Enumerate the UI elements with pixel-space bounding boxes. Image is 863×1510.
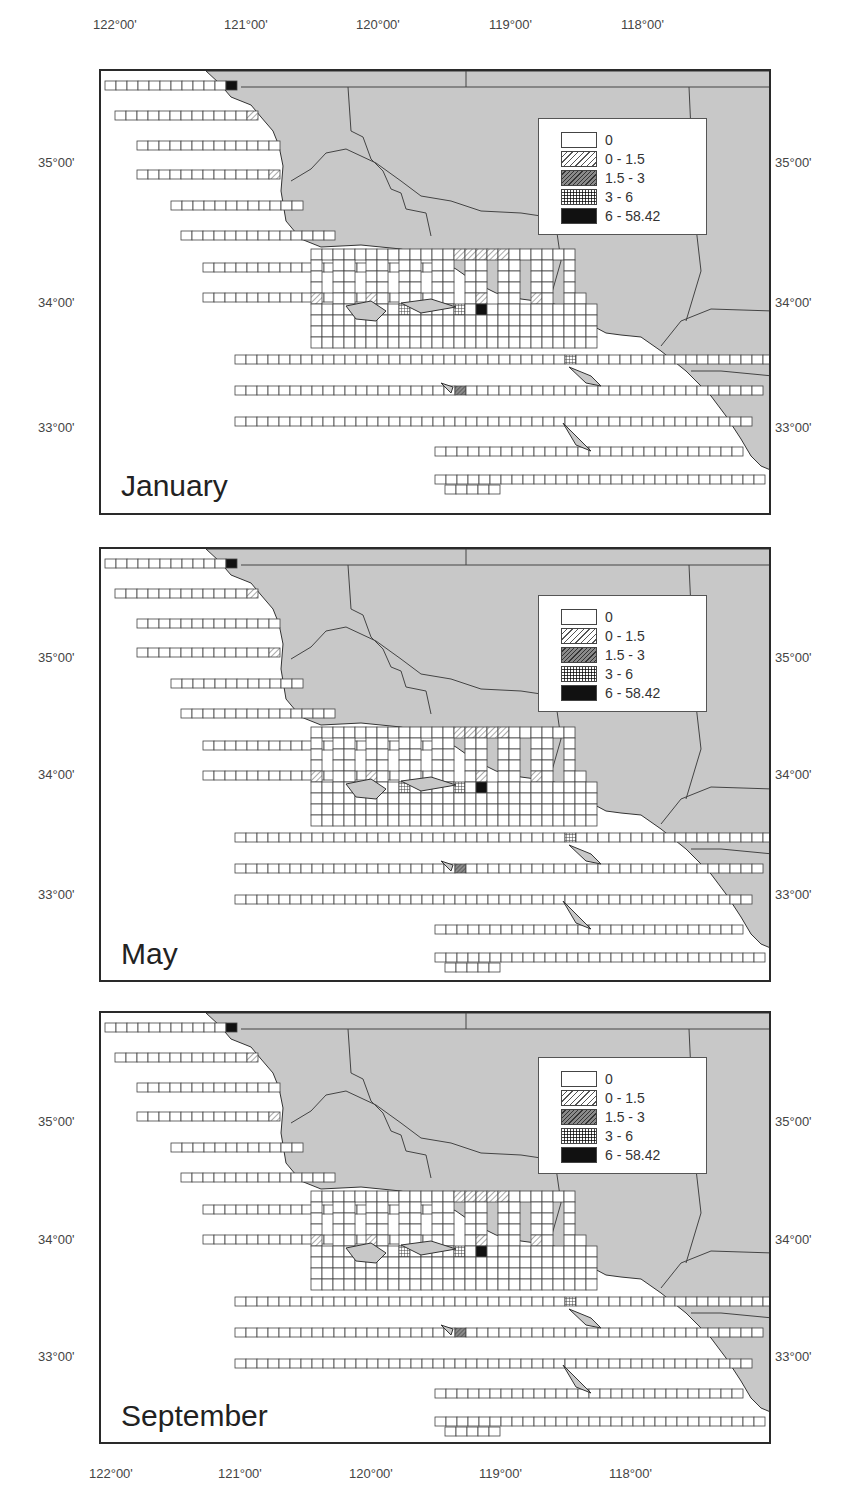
legend-label: 0 - 1.5 [605, 628, 645, 644]
legend-swatch [561, 1090, 597, 1106]
legend-label: 0 [605, 609, 613, 625]
legend-label: 0 [605, 132, 613, 148]
lat-label: 33°00' [775, 1349, 812, 1364]
legend-item: 0 - 1.5 [561, 627, 645, 645]
legend-label: 6 - 58.42 [605, 1147, 660, 1163]
legend-item: 6 - 58.42 [561, 1146, 660, 1164]
lon-label: 122°00' [93, 17, 137, 32]
lat-label: 35°00' [775, 1114, 812, 1129]
legend-item: 1.5 - 3 [561, 169, 645, 187]
legend-swatch [561, 170, 597, 186]
legend-swatch [561, 647, 597, 663]
legend-item: 0 - 1.5 [561, 150, 645, 168]
legend-swatch [561, 208, 597, 224]
lat-label: 33°00' [38, 887, 75, 902]
lat-label: 34°00' [38, 767, 75, 782]
lat-label: 35°00' [38, 1114, 75, 1129]
lat-label: 33°00' [38, 1349, 75, 1364]
legend-label: 6 - 58.42 [605, 208, 660, 224]
legend-item: 3 - 6 [561, 1127, 633, 1145]
lon-label: 119°00' [479, 1466, 522, 1481]
legend-swatch [561, 151, 597, 167]
legend-label: 3 - 6 [605, 189, 633, 205]
legend-item: 0 - 1.5 [561, 1089, 645, 1107]
month-label: September [121, 1399, 268, 1433]
legend-swatch [561, 1147, 597, 1163]
map-panel-january: 00 - 1.51.5 - 33 - 66 - 58.42 January [99, 69, 771, 515]
legend-label: 6 - 58.42 [605, 685, 660, 701]
legend: 00 - 1.51.5 - 33 - 66 - 58.42 [538, 118, 707, 235]
legend-item: 3 - 6 [561, 665, 633, 683]
legend-swatch [561, 189, 597, 205]
legend-item: 1.5 - 3 [561, 646, 645, 664]
legend-label: 3 - 6 [605, 1128, 633, 1144]
lat-label: 34°00' [775, 767, 812, 782]
legend-label: 1.5 - 3 [605, 647, 645, 663]
legend-item: 1.5 - 3 [561, 1108, 645, 1126]
legend-item: 0 [561, 608, 613, 626]
lon-label: 120°00' [349, 1466, 393, 1481]
legend-label: 0 - 1.5 [605, 151, 645, 167]
month-label: January [121, 469, 228, 503]
month-label: May [121, 937, 178, 971]
legend-label: 1.5 - 3 [605, 170, 645, 186]
lat-label: 35°00' [775, 155, 812, 170]
lat-label: 33°00' [775, 420, 812, 435]
lat-label: 33°00' [775, 887, 812, 902]
legend: 00 - 1.51.5 - 33 - 66 - 58.42 [538, 595, 707, 712]
legend-swatch [561, 685, 597, 701]
legend-item: 6 - 58.42 [561, 207, 660, 225]
lat-label: 35°00' [38, 650, 75, 665]
lon-label: 120°00' [356, 17, 400, 32]
legend-item: 0 [561, 131, 613, 149]
map-panel-may: 00 - 1.51.5 - 33 - 66 - 58.42 May [99, 547, 771, 982]
legend-swatch [561, 1071, 597, 1087]
legend-swatch [561, 666, 597, 682]
lon-label: 122°00' [89, 1466, 133, 1481]
legend-label: 1.5 - 3 [605, 1109, 645, 1125]
legend: 00 - 1.51.5 - 33 - 66 - 58.42 [538, 1057, 707, 1174]
lat-label: 35°00' [775, 650, 812, 665]
legend-item: 3 - 6 [561, 188, 633, 206]
legend-swatch [561, 628, 597, 644]
lat-label: 34°00' [775, 295, 812, 310]
legend-swatch [561, 1128, 597, 1144]
legend-swatch [561, 1109, 597, 1125]
lon-label: 118°00' [609, 1466, 652, 1481]
map-panel-september: 00 - 1.51.5 - 33 - 66 - 58.42 September [99, 1011, 771, 1444]
lon-label: 119°00' [489, 17, 532, 32]
legend-label: 0 - 1.5 [605, 1090, 645, 1106]
lat-label: 34°00' [38, 295, 75, 310]
lon-label: 118°00' [621, 17, 664, 32]
lat-label: 33°00' [38, 420, 75, 435]
lat-label: 35°00' [38, 155, 75, 170]
lon-label: 121°00' [224, 17, 268, 32]
legend-label: 3 - 6 [605, 666, 633, 682]
legend-item: 6 - 58.42 [561, 684, 660, 702]
lat-label: 34°00' [38, 1232, 75, 1247]
legend-label: 0 [605, 1071, 613, 1087]
legend-swatch [561, 132, 597, 148]
lat-label: 34°00' [775, 1232, 812, 1247]
lon-label: 121°00' [218, 1466, 262, 1481]
legend-item: 0 [561, 1070, 613, 1088]
legend-swatch [561, 609, 597, 625]
